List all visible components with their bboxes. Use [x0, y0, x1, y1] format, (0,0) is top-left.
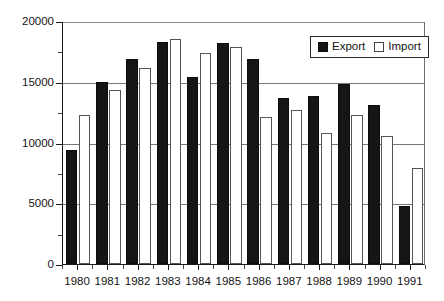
y-axis-label: 5000 — [28, 198, 54, 210]
bar-export-1984 — [187, 77, 199, 264]
bar-import-1984 — [200, 53, 212, 264]
x-axis: 1980198119821983198419851986198719881989… — [62, 276, 425, 294]
x-axis-label: 1983 — [155, 276, 181, 288]
x-axis-tick — [349, 265, 350, 270]
bar-import-1988 — [321, 133, 333, 264]
x-axis-label: 1980 — [64, 276, 90, 288]
legend-entry-export: Export — [318, 41, 365, 53]
x-axis-label: 1986 — [246, 276, 272, 288]
x-axis-minor-tick — [153, 265, 154, 269]
x-axis-tick — [289, 265, 290, 270]
y-axis-tick — [56, 144, 62, 145]
bar-export-1991 — [399, 206, 411, 264]
bar-import-1980 — [79, 115, 91, 264]
bar-import-1981 — [109, 90, 121, 264]
x-axis-label: 1981 — [95, 276, 121, 288]
x-axis-tick — [198, 265, 199, 270]
x-axis-label: 1988 — [306, 276, 332, 288]
legend-label-import: Import — [388, 41, 421, 53]
bar-export-1988 — [308, 96, 320, 264]
x-axis-minor-tick — [213, 265, 214, 269]
bar-import-1982 — [139, 68, 151, 264]
x-axis-minor-tick — [395, 265, 396, 269]
x-axis-tick — [259, 265, 260, 270]
x-axis-label: 1991 — [397, 276, 423, 288]
bar-import-1989 — [351, 115, 363, 264]
x-axis-minor-tick — [274, 265, 275, 269]
y-axis-label: 0 — [48, 259, 54, 271]
legend-swatch-export-icon — [318, 42, 328, 52]
x-axis-tick — [380, 265, 381, 270]
y-axis-label: 10000 — [22, 138, 54, 150]
x-axis-tick — [228, 265, 229, 270]
bar-import-1985 — [230, 47, 242, 264]
bar-chart: 05000100001500020000 1980198119821983198… — [0, 0, 444, 301]
x-axis-minor-tick — [334, 265, 335, 269]
y-axis-tick — [56, 22, 62, 23]
bar-export-1982 — [126, 59, 138, 264]
y-axis-label: 15000 — [22, 77, 54, 89]
bar-export-1987 — [278, 98, 290, 264]
x-axis-tick — [319, 265, 320, 270]
y-axis-label: 20000 — [22, 16, 54, 28]
bar-export-1986 — [247, 59, 259, 264]
x-axis-tick — [77, 265, 78, 270]
bar-export-1989 — [338, 84, 350, 264]
y-axis: 05000100001500020000 — [0, 0, 54, 301]
chart-legend: Export Import — [310, 36, 429, 58]
x-axis-tick — [138, 265, 139, 270]
legend-entry-import: Import — [374, 41, 421, 53]
legend-swatch-import-icon — [374, 42, 384, 52]
x-axis-label: 1987 — [276, 276, 302, 288]
bar-import-1983 — [170, 39, 182, 264]
x-axis-tick — [168, 265, 169, 270]
bar-export-1983 — [157, 42, 169, 264]
y-axis-minor-tick — [58, 174, 62, 175]
x-axis-minor-tick — [304, 265, 305, 269]
y-axis-tick — [56, 265, 62, 266]
legend-label-export: Export — [332, 41, 365, 53]
x-axis-minor-tick — [365, 265, 366, 269]
bar-export-1981 — [96, 82, 108, 264]
x-axis-label: 1990 — [367, 276, 393, 288]
gridline — [63, 83, 424, 84]
x-axis-tick — [410, 265, 411, 270]
x-axis-minor-tick — [92, 265, 93, 269]
x-axis-minor-tick — [62, 265, 63, 269]
x-axis-label: 1989 — [337, 276, 363, 288]
x-axis-minor-tick — [244, 265, 245, 269]
x-axis-label: 1984 — [185, 276, 211, 288]
gridline — [63, 22, 424, 23]
bar-import-1987 — [291, 110, 303, 264]
y-axis-minor-tick — [58, 235, 62, 236]
bar-import-1986 — [260, 117, 272, 264]
bar-import-1990 — [381, 136, 393, 264]
x-axis-minor-tick — [425, 265, 426, 269]
plot-area — [62, 22, 425, 265]
y-axis-tick — [56, 204, 62, 205]
x-axis-label: 1985 — [216, 276, 242, 288]
y-axis-minor-tick — [58, 52, 62, 53]
bar-export-1985 — [217, 43, 229, 264]
bar-import-1991 — [412, 168, 424, 264]
y-axis-minor-tick — [58, 113, 62, 114]
y-axis-tick — [56, 83, 62, 84]
bar-export-1980 — [66, 150, 78, 264]
x-axis-minor-tick — [123, 265, 124, 269]
bar-export-1990 — [368, 105, 380, 264]
x-axis-label: 1982 — [125, 276, 151, 288]
x-axis-ticks — [62, 265, 425, 273]
x-axis-minor-tick — [183, 265, 184, 269]
x-axis-tick — [107, 265, 108, 270]
